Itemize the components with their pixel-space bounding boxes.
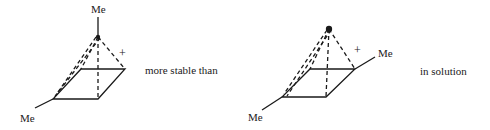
side-methyl-bond: [355, 57, 375, 69]
left-base-methyl-label: Me: [20, 113, 35, 124]
base-square: [282, 69, 355, 97]
comparison-text: more stable than: [145, 65, 218, 76]
base-methyl-bond: [262, 97, 282, 110]
structures-drawing: [0, 0, 490, 130]
left-apex-methyl-label: Me: [91, 4, 106, 15]
left-charge-label: +: [119, 47, 126, 59]
right-pyramid-cation: [262, 27, 375, 111]
base-methyl-bond: [35, 99, 53, 108]
right-base-methyl-label: Me: [248, 112, 263, 123]
right-side-methyl-label: Me: [378, 48, 393, 59]
right-charge-label: +: [354, 44, 361, 56]
left-pyramid-cation: [35, 17, 125, 108]
condition-text: in solution: [420, 66, 467, 77]
